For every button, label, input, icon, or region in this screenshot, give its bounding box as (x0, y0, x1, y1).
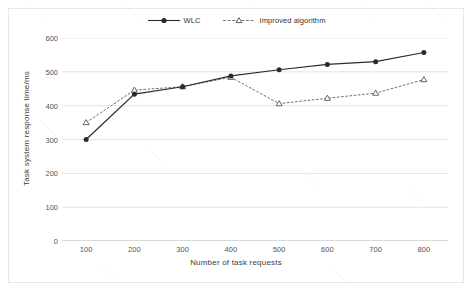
x-tick-label: 600 (307, 245, 347, 254)
chart-figure: WLC Improved algorithm Task system respo… (0, 0, 472, 291)
chart-canvas (62, 38, 448, 241)
x-tick-label: 300 (163, 245, 203, 254)
chart-legend: WLC Improved algorithm (0, 16, 472, 25)
x-axis-title: Number of task requests (0, 258, 472, 267)
x-tick-label: 700 (356, 245, 396, 254)
x-axis-ticks: 100 200 300 400 500 600 700 800 (62, 245, 448, 257)
series-improved-algorithm (83, 74, 427, 124)
plot-area (62, 38, 448, 241)
series-wlc (84, 50, 427, 142)
y-tick-label: 500 (32, 67, 58, 76)
y-axis-ticks: 0 100 200 300 400 500 600 (28, 38, 58, 241)
y-tick-label: 400 (32, 101, 58, 110)
y-tick-label: 600 (32, 34, 58, 43)
y-tick-label: 100 (32, 203, 58, 212)
x-tick-label: 400 (211, 245, 251, 254)
legend-entry-wlc[interactable]: WLC (147, 16, 201, 25)
filled-circle-marker-icon (147, 16, 181, 25)
y-tick-label: 300 (32, 135, 58, 144)
triangle-marker-icon (222, 16, 256, 25)
grid-lines (62, 38, 448, 241)
x-tick-label: 100 (66, 245, 106, 254)
y-tick-label: 0 (32, 237, 58, 246)
legend-entry-improved-algorithm[interactable]: Improved algorithm (222, 16, 325, 25)
x-tick-label: 200 (114, 245, 154, 254)
legend-label-wlc: WLC (184, 16, 201, 25)
legend-label-improved-algorithm: Improved algorithm (259, 16, 325, 25)
y-tick-label: 200 (32, 169, 58, 178)
x-tick-label: 500 (259, 245, 299, 254)
x-tick-label: 800 (404, 245, 444, 254)
